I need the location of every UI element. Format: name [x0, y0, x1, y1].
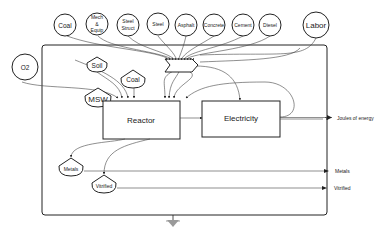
storage-metals: Metals [59, 158, 83, 176]
process-electricity: Electricity [202, 101, 280, 137]
svg-text:Struct: Struct [121, 25, 135, 31]
svg-text:Vitrified: Vitrified [96, 183, 113, 189]
output-vitrified-label: Vitrified [334, 185, 351, 191]
svg-text:Metals: Metals [64, 166, 79, 172]
source-cement: Cement [232, 14, 254, 36]
source-o2: O2 [12, 54, 38, 80]
source-asphalt: Asphalt [175, 14, 197, 36]
source-diesel: Diesel [259, 14, 281, 36]
source-steel-struct: Steel Struct [117, 14, 139, 36]
source-mech-equip: Mech & Equip [86, 13, 108, 35]
svg-text:Mech: Mech [91, 14, 103, 20]
reactor-to-vitrified-flow [104, 139, 150, 174]
process-reactor: Reactor [103, 101, 180, 139]
svg-text:Cement: Cement [234, 22, 252, 28]
svg-text:Diesel: Diesel [263, 22, 277, 28]
svg-text:Steel: Steel [122, 18, 133, 24]
storage-soil: Soil [87, 57, 107, 72]
interaction-symbol [165, 59, 198, 72]
svg-text:Electricity: Electricity [224, 114, 258, 123]
svg-text:Reactor: Reactor [127, 116, 155, 125]
svg-text:Coal: Coal [126, 76, 140, 83]
svg-text:Concrete: Concrete [204, 22, 225, 28]
output-metals-label: Metals [335, 168, 350, 174]
heat-sink-icon [166, 215, 180, 227]
source-steel: Steel [147, 13, 169, 35]
source-concrete: Concrete [203, 14, 225, 36]
source-coal: Coal [54, 14, 76, 36]
storage-vitrified: Vitrified [92, 175, 116, 193]
output-energy-label: Joules of energy [337, 115, 374, 121]
emergy-system-diagram: Coal Mech & Equip Steel Struct Steel Asp… [0, 0, 382, 234]
svg-text:Asphalt: Asphalt [178, 22, 195, 28]
source-labor: Labor [303, 12, 329, 38]
svg-text:Soil: Soil [92, 62, 103, 69]
reactor-to-metals-flow [71, 139, 125, 157]
svg-text:Equip: Equip [91, 27, 104, 33]
storage-coal: Coal [121, 70, 145, 88]
source-label: Coal [58, 22, 72, 29]
svg-text:Labor: Labor [306, 21, 327, 30]
svg-text:O2: O2 [21, 64, 30, 71]
svg-text:Steel: Steel [152, 21, 163, 27]
